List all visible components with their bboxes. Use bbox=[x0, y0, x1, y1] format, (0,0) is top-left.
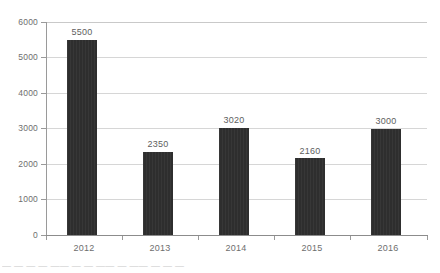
x-tick-1 bbox=[122, 236, 123, 240]
x-axis-line bbox=[46, 235, 428, 236]
gridline-4000 bbox=[46, 93, 427, 94]
y-tick-1000 bbox=[41, 199, 46, 200]
x-tick-0 bbox=[46, 236, 47, 240]
bar-2014 bbox=[219, 128, 249, 235]
x-tick-2 bbox=[198, 236, 199, 240]
value-label-2012: 5500 bbox=[52, 27, 112, 37]
gridline-6000 bbox=[46, 22, 427, 23]
y-tick-label-0: 0 bbox=[2, 230, 38, 240]
x-tick-3 bbox=[274, 236, 275, 240]
y-tick-label-4000-wrap: 4000 bbox=[0, 88, 38, 99]
y-tick-label-3000-wrap: 3000 bbox=[0, 123, 38, 134]
x-tick-label-2015: 2015 bbox=[282, 243, 342, 253]
y-tick-label-6000: 6000 bbox=[2, 17, 38, 27]
y-tick-2000 bbox=[41, 164, 46, 165]
y-tick-label-6000-wrap: 6000 bbox=[0, 17, 38, 28]
y-tick-label-0-wrap: 0 bbox=[0, 230, 38, 241]
value-label-2014: 3020 bbox=[204, 115, 264, 125]
caption-text: — — — — —— — — —— — —— — — — bbox=[2, 264, 184, 271]
x-tick-4 bbox=[350, 236, 351, 240]
x-tick-5 bbox=[427, 236, 428, 240]
gridline-5000 bbox=[46, 57, 427, 58]
y-tick-5000 bbox=[41, 57, 46, 58]
y-tick-label-5000: 5000 bbox=[2, 52, 38, 62]
y-tick-label-1000-wrap: 1000 bbox=[0, 194, 38, 205]
bar-2016 bbox=[371, 129, 401, 236]
x-tick-label-2016: 2016 bbox=[358, 243, 418, 253]
y-tick-label-5000-wrap: 5000 bbox=[0, 52, 38, 63]
bar-2012 bbox=[67, 40, 97, 235]
y-tick-label-2000-wrap: 2000 bbox=[0, 159, 38, 170]
value-label-2013: 2350 bbox=[128, 139, 188, 149]
value-label-2015: 2160 bbox=[280, 146, 340, 156]
y-tick-label-4000: 4000 bbox=[2, 88, 38, 98]
y-tick-label-3000: 3000 bbox=[2, 123, 38, 133]
y-tick-3000 bbox=[41, 128, 46, 129]
y-tick-6000 bbox=[41, 22, 46, 23]
y-tick-label-1000: 1000 bbox=[2, 194, 38, 204]
bar-2015 bbox=[295, 158, 325, 235]
x-tick-label-2014: 2014 bbox=[206, 243, 266, 253]
bar-chart: 6000 5000 4000 3000 2000 1000 0 5500 235… bbox=[0, 0, 440, 273]
caption-clipped: — — — — —— — — —— — —— — — — bbox=[2, 264, 438, 273]
plot-area bbox=[46, 22, 427, 235]
y-axis-line bbox=[46, 22, 47, 236]
y-tick-4000 bbox=[41, 93, 46, 94]
value-label-2016: 3000 bbox=[356, 116, 416, 126]
x-tick-label-2012: 2012 bbox=[54, 243, 114, 253]
bar-2013 bbox=[143, 152, 173, 235]
x-tick-label-2013: 2013 bbox=[130, 243, 190, 253]
y-tick-label-2000: 2000 bbox=[2, 159, 38, 169]
